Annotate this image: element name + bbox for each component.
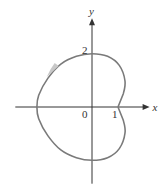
x-axis-label: x bbox=[152, 101, 158, 113]
origin-label: 0 bbox=[82, 108, 88, 120]
y-tick-label: 2 bbox=[82, 44, 88, 56]
x-tick-label: 1 bbox=[112, 108, 118, 120]
y-axis-arrowhead bbox=[89, 18, 95, 25]
direction-arrow-icon bbox=[47, 63, 59, 77]
y-axis-label: y bbox=[88, 5, 94, 17]
polar-curve-plot: x y 0 1 2 bbox=[0, 0, 162, 194]
x-axis-arrowhead bbox=[143, 104, 150, 110]
